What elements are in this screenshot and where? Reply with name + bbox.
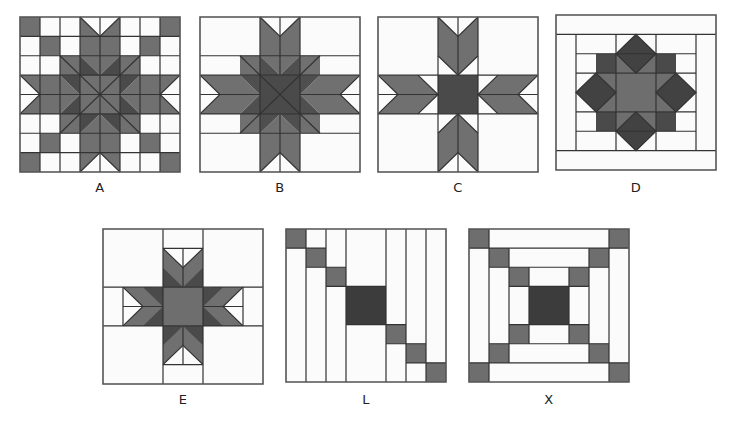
block-c-pattern	[378, 17, 538, 172]
block-label-x: X	[469, 392, 629, 407]
quilt-block-d	[556, 15, 716, 170]
quilt-block-b	[200, 17, 360, 172]
block-l-pattern	[286, 229, 446, 382]
block-d-pattern	[556, 15, 716, 170]
block-x-pattern	[469, 229, 629, 382]
block-label-e: E	[103, 392, 263, 407]
block-label-a: A	[20, 180, 180, 195]
block-b-pattern	[200, 17, 360, 172]
block-label-b: B	[200, 180, 360, 195]
block-label-c: C	[378, 180, 538, 195]
block-a-pattern	[20, 17, 180, 172]
quilt-block-l	[286, 229, 446, 382]
quilt-block-e	[103, 229, 263, 384]
quilt-block-x	[469, 229, 629, 382]
block-label-d: D	[556, 180, 716, 195]
quilt-block-c	[378, 17, 538, 172]
block-label-l: L	[286, 392, 446, 407]
quilt-block-a	[20, 17, 180, 172]
block-e-pattern	[103, 229, 263, 384]
